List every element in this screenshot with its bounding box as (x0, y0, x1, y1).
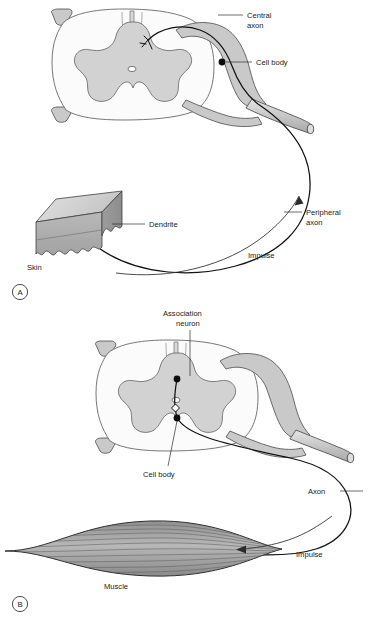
label-association-neuron-line1: Association (163, 309, 202, 318)
label-skin-a: Skin (27, 263, 42, 272)
nerve-cut-end-a (307, 124, 313, 133)
spinal-nerve-trunk-b (290, 430, 352, 462)
figure-root: Central axon Cell body Peripheral axon D… (0, 0, 377, 617)
label-association-neuron-line2: neuron (176, 319, 200, 328)
label-dendrite-a: Dendrite (149, 220, 178, 229)
skin-block (36, 191, 122, 255)
label-cell-body-a: Cell body (256, 58, 288, 67)
label-peripheral-axon-line1: Peripheral (306, 208, 341, 217)
sensory-cell-body-a (219, 59, 226, 66)
panel-letter-a: A (17, 288, 23, 297)
central-canal-a (128, 66, 136, 71)
nerve-cut-end-b (347, 453, 353, 462)
label-muscle-b: Muscle (104, 582, 128, 591)
label-impulse-a: Impulse (248, 251, 275, 260)
panel-letter-b-group: B (12, 596, 27, 611)
central-canal-b (172, 397, 180, 402)
panel-letter-b: B (17, 600, 22, 609)
label-impulse-b: Impulse (296, 550, 323, 559)
label-axon-b: Axon (308, 487, 325, 496)
spinal-nerve-trunk-a (246, 99, 312, 133)
panel-b: Association neuron Cell body Axon Impuls… (0, 309, 363, 612)
association-neuron-soma-b (174, 376, 181, 383)
label-cell-body-b: Cell body (143, 470, 175, 479)
panel-a: Central axon Cell body Peripheral axon D… (12, 9, 341, 300)
label-central-axon-line1: Central (247, 11, 272, 20)
panel-letter-a-group: A (12, 284, 27, 299)
label-central-axon-line2: axon (247, 21, 263, 30)
impulse-arrowhead-a (295, 196, 304, 206)
impulse-arc-a (116, 196, 299, 275)
label-peripheral-axon-line2: axon (306, 218, 322, 227)
reflex-arc-figure: Central axon Cell body Peripheral axon D… (0, 0, 377, 617)
